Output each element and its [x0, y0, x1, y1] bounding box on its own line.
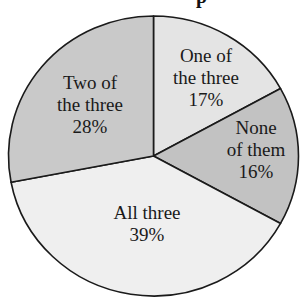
slice-label-two-of-three: Two of the three 28%: [57, 72, 123, 138]
label-percent: 17%: [173, 89, 239, 111]
label-line: One of: [173, 45, 239, 67]
label-line: None: [227, 117, 286, 139]
label-line: the three: [173, 67, 239, 89]
slice-label-one-of-three: One of the three 17%: [173, 45, 239, 111]
pie-chart: p One of the three 17% None of them 16% …: [0, 0, 307, 306]
label-line: Two of: [57, 72, 123, 94]
label-line: the three: [57, 94, 123, 116]
label-percent: 16%: [227, 161, 286, 183]
slice-label-all-three: All three 39%: [113, 202, 180, 246]
label-percent: 39%: [113, 224, 180, 246]
label-line: All three: [113, 202, 180, 224]
label-percent: 28%: [57, 116, 123, 138]
label-line: of them: [227, 139, 286, 161]
slice-label-none-of-them: None of them 16%: [227, 117, 286, 183]
